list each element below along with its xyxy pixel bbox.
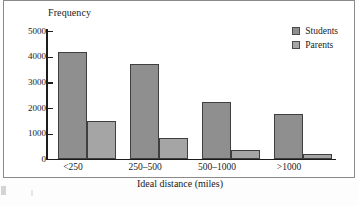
x-tick-label-3: >1000 [257,162,321,172]
bar-students-3 [274,114,303,159]
y-tick-label-3000: 3000 [12,78,46,87]
bar-group-0 [58,31,120,159]
legend-item-parents: Parents [292,39,338,50]
x-tick-label-0: <250 [41,162,105,172]
scan-artifact-mark [31,190,33,196]
y-tick-label-5000: 5000 [12,27,46,36]
x-axis-title: Ideal distance (miles) [4,178,356,189]
legend-swatch-students-icon [292,27,300,35]
chart-legend: Students Parents [292,25,338,53]
bar-group-1 [130,31,192,159]
legend-label-students: Students [305,26,338,36]
scan-artifact-left [1,186,6,195]
x-tick-label-1: 250–500 [113,162,177,172]
y-tick-label-4000: 4000 [12,52,46,61]
bar-students-0 [58,52,87,159]
bar-group-2 [202,31,264,159]
x-tick-label-2: 500–1000 [185,162,249,172]
legend-item-students: Students [292,25,338,36]
bar-parents-1 [159,138,188,159]
figure-container: Frequency 5000 4000 3000 2000 1000 0 [0,0,359,206]
bar-parents-0 [87,121,116,159]
y-tick-label-2000: 2000 [12,104,46,113]
chart-plate: Frequency 5000 4000 3000 2000 1000 0 [3,0,355,178]
y-tick-label-1000: 1000 [12,129,46,138]
bar-students-2 [202,102,231,159]
legend-label-parents: Parents [305,40,333,50]
bar-students-1 [130,64,159,159]
bar-parents-3 [303,154,332,159]
legend-swatch-parents-icon [292,41,300,49]
bar-parents-2 [231,150,260,160]
y-axis-label: Frequency [48,7,91,18]
